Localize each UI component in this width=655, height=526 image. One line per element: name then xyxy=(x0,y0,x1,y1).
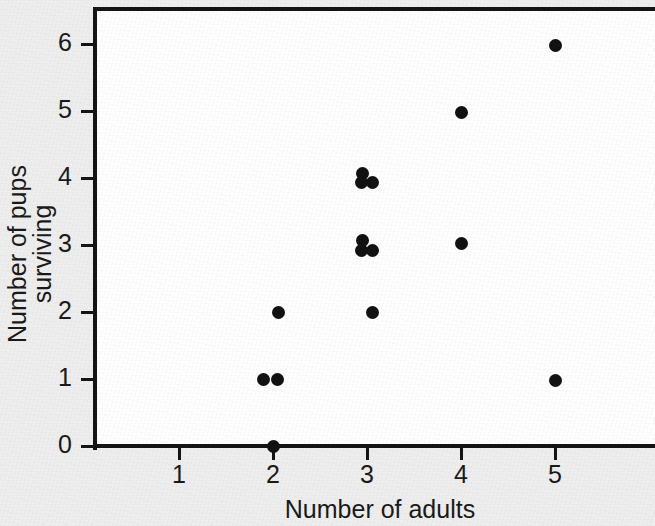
plot-frame-top-border xyxy=(93,7,655,11)
y-axis-tick xyxy=(81,43,93,46)
data-point xyxy=(549,39,562,52)
data-point xyxy=(366,306,379,319)
x-axis-tick xyxy=(178,448,181,460)
x-axis-tick-label: 3 xyxy=(347,462,387,487)
y-axis-line xyxy=(93,7,97,450)
y-axis-tick-label: 0 xyxy=(44,432,72,457)
x-axis-tick-label: 2 xyxy=(253,462,293,487)
data-point xyxy=(271,373,284,386)
y-axis-tick xyxy=(81,445,93,448)
y-axis-tick xyxy=(81,177,93,180)
x-axis-tick-label: 4 xyxy=(441,462,481,487)
data-point xyxy=(455,237,468,250)
x-axis-title: Number of adults xyxy=(205,497,555,522)
y-axis-tick-label: 6 xyxy=(44,30,72,55)
x-axis-tick-label: 5 xyxy=(535,462,575,487)
x-axis-tick-label: 1 xyxy=(159,462,199,487)
x-axis-tick xyxy=(460,448,463,460)
y-axis-tick xyxy=(81,378,93,381)
data-point xyxy=(549,374,562,387)
x-axis-tick xyxy=(366,448,369,460)
data-point xyxy=(257,373,270,386)
data-point xyxy=(455,106,468,119)
y-axis-tick xyxy=(81,244,93,247)
data-point xyxy=(272,306,285,319)
data-point xyxy=(366,244,379,257)
y-axis-title: Number of pups surviving xyxy=(5,114,55,394)
data-point xyxy=(267,440,280,453)
y-axis-tick xyxy=(81,311,93,314)
scatter-plot-figure: 0123456 12345 Number of adults Number of… xyxy=(0,0,655,526)
x-axis-tick xyxy=(554,448,557,460)
plot-area xyxy=(93,7,655,446)
y-axis-tick xyxy=(81,110,93,113)
